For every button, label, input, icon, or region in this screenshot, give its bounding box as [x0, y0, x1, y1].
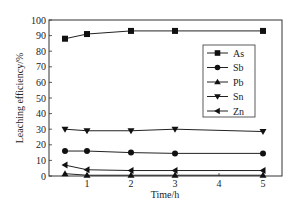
y-tick-label: 40 — [36, 108, 46, 119]
circle-marker — [260, 150, 266, 156]
legend-label: Zn — [233, 106, 244, 117]
series-sn — [62, 127, 267, 135]
series-line — [65, 31, 263, 39]
y-axis-label: Leaching efficiency/% — [14, 53, 25, 144]
square-marker — [172, 28, 178, 34]
y-tick-label: 90 — [36, 30, 46, 41]
legend: AsSbPbSnZn — [203, 45, 255, 117]
legend-box — [203, 45, 255, 117]
x-axis-label: Time/h — [151, 189, 180, 200]
series-line — [65, 129, 263, 131]
circle-marker — [172, 150, 178, 156]
y-tick-label: 0 — [41, 171, 46, 182]
triangle-up-marker — [62, 170, 69, 176]
circle-marker — [84, 148, 90, 154]
y-tick-label: 10 — [36, 155, 46, 166]
line-chart: 010203040506070809010012345 AsSbPbSnZn T… — [0, 0, 296, 210]
square-marker — [260, 28, 266, 34]
legend-label: Pb — [233, 77, 244, 88]
series-sb — [62, 148, 266, 156]
x-tick-label: 4 — [217, 178, 222, 189]
legend-label: Sn — [233, 91, 244, 102]
legend-label: As — [233, 48, 244, 59]
y-tick-label: 60 — [36, 77, 46, 88]
square-marker — [128, 28, 134, 34]
circle-marker — [215, 65, 221, 71]
y-tick-label: 70 — [36, 61, 46, 72]
series-as — [62, 28, 266, 42]
series-zn — [62, 162, 266, 174]
x-tick-label: 2 — [129, 178, 134, 189]
series-pb — [62, 170, 267, 178]
x-tick-label: 3 — [173, 178, 178, 189]
y-tick-label: 100 — [31, 15, 46, 26]
y-tick-label: 30 — [36, 124, 46, 135]
series-line — [65, 165, 263, 170]
circle-marker — [62, 148, 68, 154]
series-line — [65, 151, 263, 153]
triangle-left-marker — [62, 162, 68, 169]
legend-label: Sb — [233, 62, 244, 73]
circle-marker — [128, 150, 134, 156]
y-tick-label: 50 — [36, 93, 46, 104]
square-marker — [215, 50, 221, 56]
y-tick-label: 80 — [36, 46, 46, 57]
y-tick-label: 20 — [36, 139, 46, 150]
square-marker — [84, 31, 90, 37]
x-tick-label: 5 — [261, 178, 266, 189]
triangle-left-marker — [84, 166, 90, 173]
x-tick-label: 1 — [85, 178, 90, 189]
square-marker — [62, 36, 68, 42]
series-line — [65, 174, 263, 176]
triangle-down-marker — [260, 129, 267, 135]
